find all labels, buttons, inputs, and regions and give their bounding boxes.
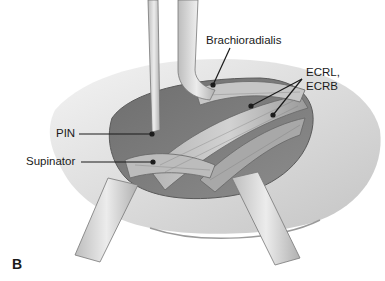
surgical-illustration xyxy=(0,0,385,281)
panel-letter: B xyxy=(12,256,22,272)
label-ecrl: ECRL, xyxy=(306,66,340,79)
illustration-artwork xyxy=(0,0,385,281)
label-ecrb: ECRB xyxy=(306,80,338,93)
label-supinator: Supinator xyxy=(26,155,75,168)
label-brachioradialis: Brachioradialis xyxy=(206,34,281,47)
label-pin: PIN xyxy=(56,127,75,140)
